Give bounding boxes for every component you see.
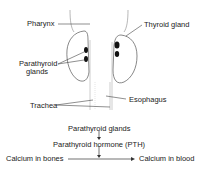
thyroid-gland-label: Thyroid gland xyxy=(144,21,189,29)
flow-target-calcium-blood: Calcium in blood xyxy=(139,155,194,163)
thyroid-leader xyxy=(126,25,142,36)
parathyroid-gland-right-lower xyxy=(115,51,119,57)
flow-arrow-2-head xyxy=(97,155,101,158)
parathyroid-gland-left-upper xyxy=(84,47,88,53)
flow-step-parathyroid-glands: Parathyroid glands xyxy=(68,125,131,133)
pharynx-label: Pharynx xyxy=(27,20,55,28)
trachea-leader-upper xyxy=(56,100,93,105)
trachea-leader-lower xyxy=(56,105,110,107)
parathyroid-gland-left-lower xyxy=(84,56,88,62)
trachea-label: Trachea xyxy=(30,102,57,110)
calcium-flow-arrow-head xyxy=(131,157,135,161)
parathyroid-gland-right-upper xyxy=(115,42,120,49)
pharynx-left-outline xyxy=(70,10,74,32)
parathyroid-label-line2: glands xyxy=(26,68,48,76)
esophagus-label: Esophagus xyxy=(129,96,167,104)
flow-step-pth: Parathyroid hormone (PTH) xyxy=(53,141,145,149)
esophagus-leader xyxy=(106,96,126,99)
pharynx-right-outline xyxy=(124,10,128,32)
flow-source-calcium-bones: Calcium in bones xyxy=(6,155,64,163)
